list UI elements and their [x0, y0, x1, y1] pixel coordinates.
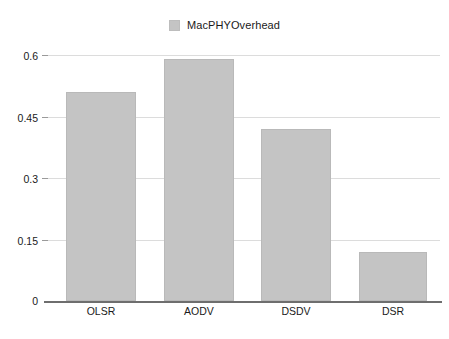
y-tick-label-0.6: 0.6	[0, 51, 38, 62]
bar-dsr[interactable]	[359, 252, 427, 301]
x-tick-label-olsr: OLSR	[61, 306, 141, 317]
x-tick-label-aodv: AODV	[159, 306, 239, 317]
x-axis: OLSR AODV DSDV DSR	[48, 306, 440, 322]
y-tick-label-0.45: 0.45	[0, 113, 38, 124]
bar-aodv[interactable]	[164, 59, 234, 301]
y-tick-label-0.15: 0.15	[0, 236, 38, 247]
legend-label: MacPHYOverhead	[187, 20, 280, 31]
plot-area	[48, 50, 440, 301]
y-tick-label-0.3: 0.3	[0, 174, 38, 185]
x-axis-line	[44, 301, 442, 303]
x-tick-label-dsr: DSR	[353, 306, 433, 317]
gridline-0.6	[48, 55, 440, 56]
legend-entry-macphyoverhead[interactable]: MacPHYOverhead	[169, 20, 280, 31]
legend-swatch-icon	[169, 20, 180, 31]
bar-chart: MacPHYOverhead 0.6 0.45 0.3 0.15 0 OLSR …	[0, 0, 449, 339]
y-axis: 0.6 0.45 0.3 0.15 0	[0, 0, 38, 339]
bar-dsdv[interactable]	[261, 129, 331, 301]
chart-legend: MacPHYOverhead	[0, 17, 449, 33]
bar-olsr[interactable]	[66, 92, 136, 301]
y-tick-label-0: 0	[0, 296, 38, 307]
x-tick-label-dsdv: DSDV	[256, 306, 336, 317]
